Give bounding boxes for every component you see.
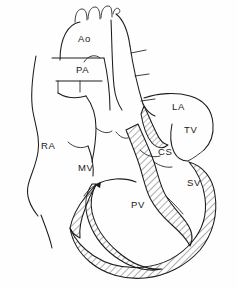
label-ao: Ao [78, 33, 91, 44]
label-la: LA [172, 101, 185, 112]
label-pv: PV [131, 199, 145, 210]
label-tv: TV [184, 124, 197, 135]
label-mv: MV [78, 162, 94, 173]
central-septum-strokes [68, 58, 128, 176]
heart-diagram-canvas: Ao PA LA TV CS RA MV SV PV [0, 0, 237, 289]
label-sv: SV [187, 177, 201, 188]
aortic-arch [60, 14, 130, 60]
label-ra: RA [41, 140, 55, 151]
label-group: Ao PA LA TV CS RA MV SV PV [41, 33, 201, 210]
heart-diagram-figure: Ao PA LA TV CS RA MV SV PV [0, 0, 237, 289]
right-atrium-contour [27, 56, 52, 248]
aortic-arch-branches [75, 6, 120, 22]
label-pa: PA [76, 64, 89, 75]
label-cs: CS [158, 146, 172, 157]
pulmonary-artery-trunk [56, 81, 102, 98]
